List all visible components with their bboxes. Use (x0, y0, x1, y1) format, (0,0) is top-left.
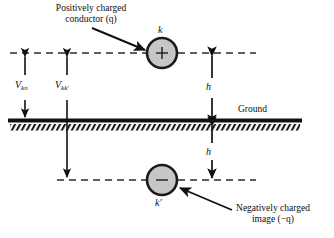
conductor-node-k[interactable] (147, 38, 177, 68)
node-k-label: k (158, 24, 162, 36)
image-node-kprime[interactable] (147, 165, 177, 195)
positive-conductor-callout-line2: conductor (q) (32, 14, 150, 25)
negative-image-callout-line2: image (−q) (212, 214, 334, 225)
voltage-kn-subscript: kn (21, 84, 28, 92)
voltage-kkprime-label: Vkk′ (55, 79, 69, 92)
ground-label: Ground (238, 104, 267, 115)
negative-image-callout-line1: Negatively charged (236, 203, 310, 213)
positive-conductor-callout-line1: Positively charged (56, 3, 126, 13)
voltage-kkprime-subscript: kk′ (61, 84, 69, 92)
height-upper-label: h (206, 81, 211, 93)
voltage-kn-label: Vkn (15, 79, 28, 92)
negative-image-callout: Negatively charged image (−q) (212, 203, 334, 225)
figure-canvas: Positively charged conductor (q) Negativ… (0, 0, 334, 238)
positive-conductor-callout: Positively charged conductor (q) (32, 3, 150, 25)
callout-leader-top (92, 28, 145, 50)
ground-plane (8, 121, 302, 131)
height-lower-label: h (206, 146, 211, 158)
node-kprime-label: k′ (155, 197, 162, 209)
